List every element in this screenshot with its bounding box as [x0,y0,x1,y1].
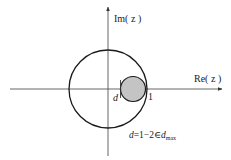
one-label: 1 [148,91,153,102]
d-label: d [113,92,119,103]
stability-disc [121,77,146,102]
imaginary-axis-label: Im( z ) [114,13,141,25]
equation-body: =1−2∈ [134,130,161,140]
equation-label: d=1−2∈dmax [129,130,176,141]
real-axis-label: Re( z ) [194,73,221,85]
complex-plane-diagram: Im( z ) Re( z ) d 1 d=1−2∈dmax [0,0,231,160]
